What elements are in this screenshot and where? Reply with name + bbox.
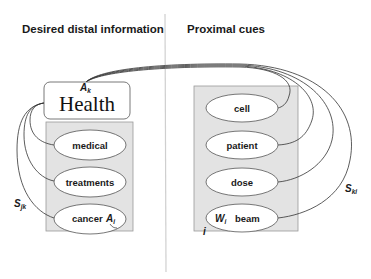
health-label: Health [59, 92, 115, 116]
plate-p-index: i [203, 226, 206, 237]
node-beam-label: beam [235, 213, 260, 224]
node-treatments-label: treatments [66, 177, 115, 188]
header-proximal-cues: Proximal cues [187, 23, 265, 35]
header-desired-distal: Desired distal information [22, 23, 164, 35]
edge-label-sjk: Sjk [14, 198, 26, 211]
node-cell-label: cell [234, 103, 250, 114]
node-patient-label: patient [226, 140, 258, 151]
node-cancer-label: cancer [72, 213, 103, 224]
edge-label-ski: Ski [345, 183, 357, 195]
node-dose-label: dose [231, 177, 253, 188]
column-divider [165, 14, 166, 272]
node-medical-label: medical [72, 140, 107, 151]
diagram-canvas: Desired distal information Proximal cues… [0, 0, 371, 279]
